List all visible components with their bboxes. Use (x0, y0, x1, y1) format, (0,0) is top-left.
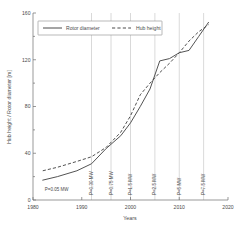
annotation-label-6: P=7.5 MW (201, 173, 206, 195)
annotation-label-3: P=1.5 MW (128, 173, 133, 195)
legend-label-rotor: Rotor diameter (66, 25, 100, 31)
chart-background (0, 0, 242, 237)
y-tick-label-2: 80 (25, 103, 31, 109)
y-axis-title: Hub height / Rotor diameter [m] (6, 70, 12, 144)
annotation-label-5: P=5 MW (177, 177, 182, 195)
x-axis-title: Years (123, 215, 137, 221)
y-tick-label-0: 0 (28, 197, 31, 203)
y-tick-label-3: 120 (22, 57, 31, 63)
y-tick-label-4: 160 (22, 10, 31, 16)
x-tick-label-1: 1990 (76, 204, 87, 210)
annotation-label-0: P=0.05 MW (45, 187, 69, 192)
x-tick-label-3: 2010 (174, 204, 185, 210)
legend: Rotor diameter Hub height (38, 21, 162, 35)
chart-figure: 04080120160 19801990200020102020 P=0.05 … (0, 0, 242, 237)
line-chart: 04080120160 19801990200020102020 P=0.05 … (0, 0, 242, 237)
x-tick-label-4: 2020 (222, 204, 233, 210)
y-tick-label-1: 40 (25, 150, 31, 156)
x-tick-label-0: 1980 (27, 204, 38, 210)
x-tick-label-2: 2000 (125, 204, 136, 210)
annotation-label-2: P=0.75 MW (109, 171, 114, 195)
annotation-label-4: P=2.5 MW (152, 173, 157, 195)
legend-label-hub: Hub height (136, 25, 161, 31)
annotation-label-1: P=0.30 MW (89, 171, 94, 195)
